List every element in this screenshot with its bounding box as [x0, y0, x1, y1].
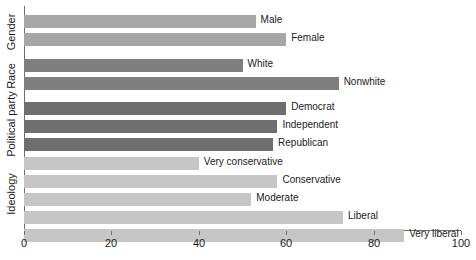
bar-nonwhite: [24, 77, 339, 90]
group-axis-label-ideology: Ideology: [5, 166, 17, 222]
x-tick-label-60: 60: [280, 237, 292, 249]
bar-label-female: Female: [291, 32, 324, 43]
bar-republican: [24, 138, 273, 151]
x-tick-mark: [286, 231, 287, 235]
x-tick-label-0: 0: [21, 237, 27, 249]
group-axis-label-political-party: Political party: [5, 85, 17, 163]
bar-chart: Gender Race Political party Ideology Mal…: [0, 0, 476, 260]
bar-label-republican: Republican: [278, 137, 328, 148]
bar-label-nonwhite: Nonwhite: [344, 76, 386, 87]
bar-label-white: White: [248, 58, 274, 69]
x-tick-label-80: 80: [368, 237, 380, 249]
bar-very-liberal: [24, 229, 404, 242]
bar-label-moderate: Moderate: [256, 192, 298, 203]
bar-label-very-conservative: Very conservative: [204, 156, 283, 167]
bar-democrat: [24, 102, 286, 115]
x-tick-mark: [24, 231, 25, 235]
bar-label-male: Male: [261, 14, 283, 25]
x-tick-mark: [461, 231, 462, 235]
bar-liberal: [24, 211, 343, 224]
x-tick-mark: [374, 231, 375, 235]
bar-white: [24, 59, 243, 72]
bar-male: [24, 15, 256, 28]
group-axis-label-gender: Gender: [5, 9, 17, 55]
x-tick-label-20: 20: [105, 237, 117, 249]
x-tick-label-40: 40: [193, 237, 205, 249]
x-tick-mark: [111, 231, 112, 235]
bar-label-independent: Independent: [282, 119, 338, 130]
bar-very-conservative: [24, 157, 199, 170]
x-tick-label-100: 100: [452, 237, 470, 249]
plot-area: Male Female White Nonwhite Democrat Inde…: [24, 6, 461, 231]
bar-independent: [24, 120, 277, 133]
x-tick-mark: [199, 231, 200, 235]
bar-moderate: [24, 193, 251, 206]
bar-female: [24, 33, 286, 46]
bar-label-conservative: Conservative: [282, 174, 340, 185]
bar-conservative: [24, 175, 277, 188]
bar-label-liberal: Liberal: [348, 210, 378, 221]
bar-label-democrat: Democrat: [291, 101, 334, 112]
